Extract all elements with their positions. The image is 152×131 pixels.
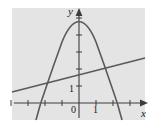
x-axis-arrowhead <box>140 100 148 107</box>
x-axis-label: x <box>141 108 146 119</box>
y-axis-label: y <box>68 6 73 17</box>
y-axis-tick-label-1: 1 <box>69 84 74 94</box>
origin-label: 0 <box>71 105 76 115</box>
y-axis-arrowhead <box>76 8 83 16</box>
graph-figure: y x 0 1 1 <box>0 0 152 131</box>
graph-canvas <box>0 0 152 131</box>
x-axis-tick-label-1: 1 <box>93 105 98 115</box>
